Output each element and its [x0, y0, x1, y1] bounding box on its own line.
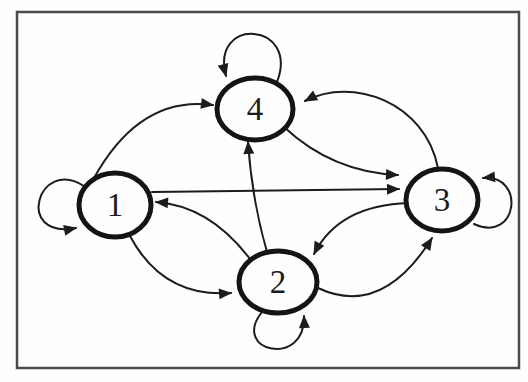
- edge-1-to-4: [94, 104, 213, 178]
- diagram-page: 1234: [0, 0, 528, 382]
- edge-4-to-4: [224, 34, 281, 82]
- state-node-3-label: 3: [434, 182, 451, 218]
- edge-2-to-3: [318, 238, 432, 296]
- edge-2-to-1: [156, 202, 250, 259]
- edge-3-to-2: [314, 203, 409, 254]
- edge-1-to-2: [130, 236, 231, 293]
- edge-2-to-2: [254, 312, 304, 349]
- state-node-2-label: 2: [270, 264, 287, 300]
- state-node-4-label: 4: [247, 91, 264, 127]
- state-transition-diagram: 1234: [0, 0, 528, 382]
- edge-1-to-3: [152, 189, 399, 192]
- edge-4-to-3: [284, 127, 398, 175]
- state-node-1-label: 1: [107, 187, 124, 223]
- edge-2-to-4: [248, 142, 267, 252]
